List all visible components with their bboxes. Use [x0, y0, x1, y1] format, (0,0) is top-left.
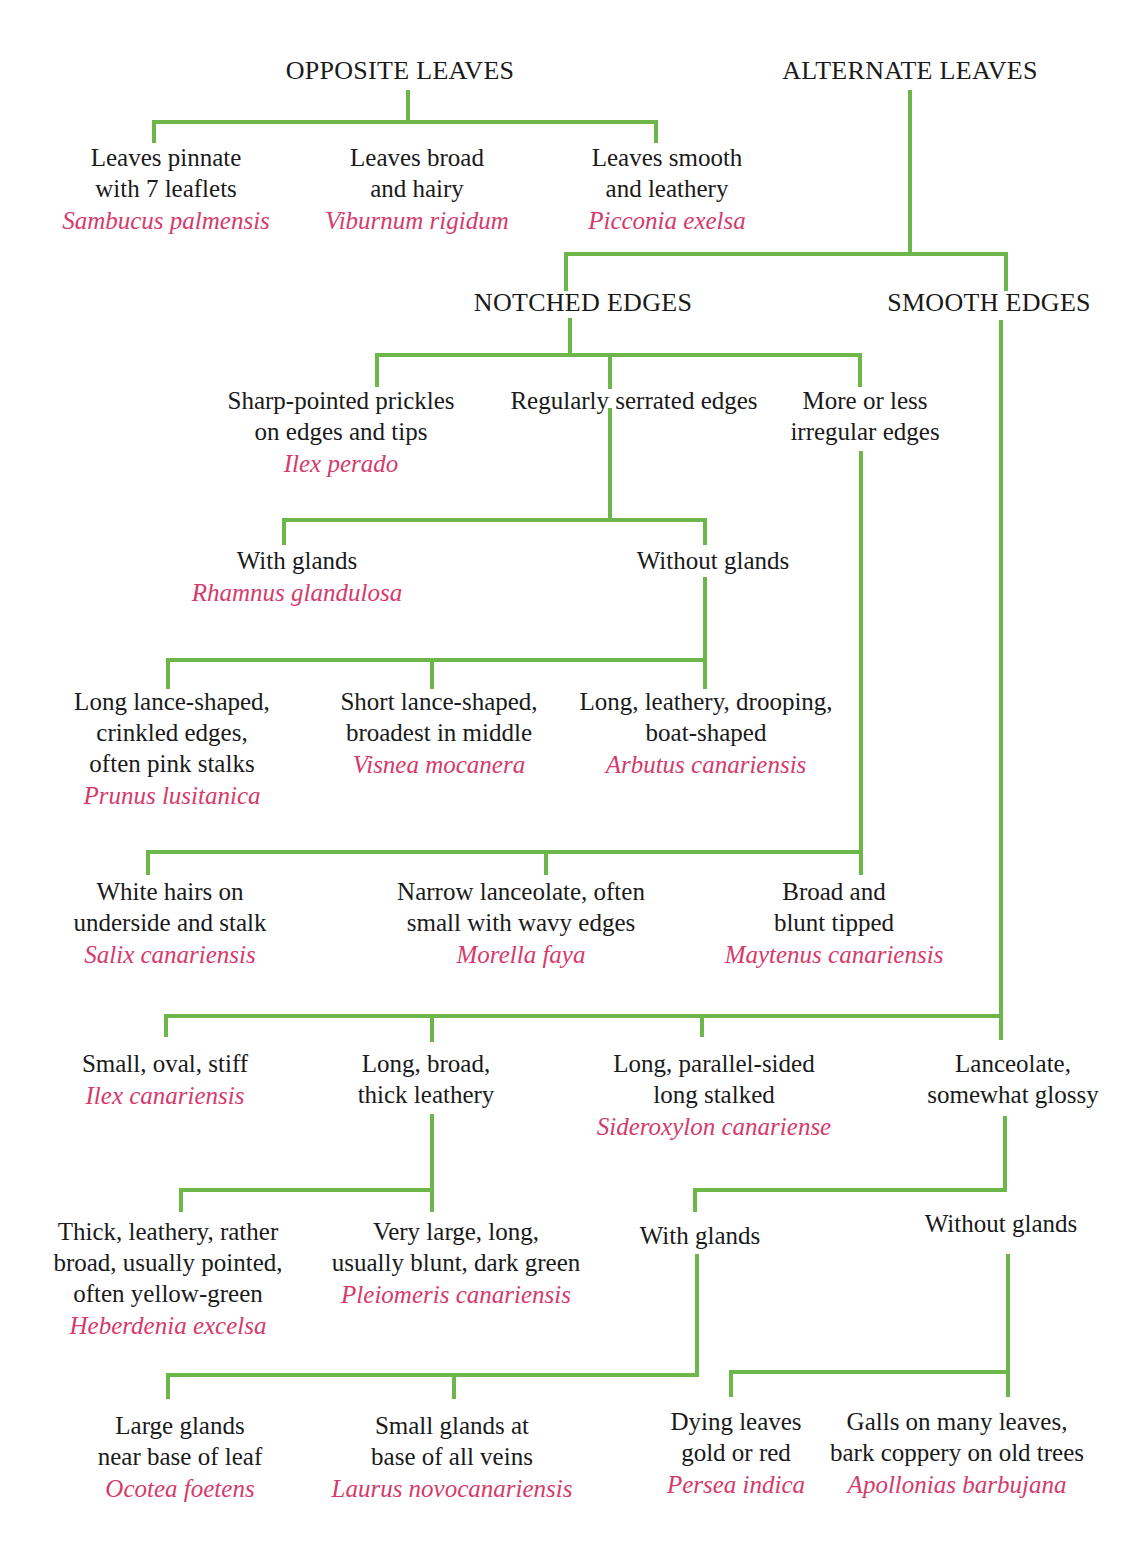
node-description: Dying leaves — [667, 1406, 805, 1437]
key-node: Lanceolate,somewhat glossy — [927, 1048, 1099, 1110]
node-description: Large glands — [98, 1410, 262, 1441]
node-description: More or less — [790, 385, 939, 416]
node-description: Long lance-shaped, — [74, 686, 270, 717]
node-description: Broad and — [725, 876, 944, 907]
key-node: Galls on many leaves,bark coppery on old… — [830, 1406, 1084, 1502]
species-name: Prunus lusitanica — [74, 779, 270, 813]
species-name: Heberdenia excelsa — [53, 1309, 282, 1343]
heading-smooth: SMOOTH EDGES — [887, 288, 1091, 318]
key-node: Leaves smoothand leatheryPicconia exelsa — [588, 142, 746, 238]
node-description: Sharp-pointed prickles — [227, 385, 454, 416]
node-description: With glands — [192, 545, 402, 576]
key-node: White hairs onunderside and stalkSalix c… — [73, 876, 266, 972]
node-description: broadest in middle — [340, 717, 537, 748]
node-description: with 7 leaflets — [62, 173, 270, 204]
node-description: Leaves pinnate — [62, 142, 270, 173]
species-name: Ocotea foetens — [98, 1472, 262, 1506]
node-description: irregular edges — [790, 416, 939, 447]
node-description: Regularly serrated edges — [510, 385, 757, 416]
key-node: Small glands atbase of all veinsLaurus n… — [332, 1410, 573, 1506]
node-description: Without glands — [925, 1208, 1077, 1239]
node-description: near base of leaf — [98, 1441, 262, 1472]
node-description: Lanceolate, — [927, 1048, 1099, 1079]
species-name: Rhamnus glandulosa — [192, 576, 402, 610]
node-description: and leathery — [588, 173, 746, 204]
node-description: base of all veins — [332, 1441, 573, 1472]
node-description: boat-shaped — [579, 717, 832, 748]
species-name: Viburnum rigidum — [325, 204, 509, 238]
species-name: Picconia exelsa — [588, 204, 746, 238]
node-description: long stalked — [597, 1079, 831, 1110]
node-description: Long, broad, — [358, 1048, 495, 1079]
key-node: With glandsRhamnus glandulosa — [192, 545, 402, 610]
node-description: crinkled edges, — [74, 717, 270, 748]
node-description: usually blunt, dark green — [332, 1247, 581, 1278]
key-node: Long lance-shaped,crinkled edges,often p… — [74, 686, 270, 813]
key-node: Large glandsnear base of leafOcotea foet… — [98, 1410, 262, 1506]
key-node: Narrow lanceolate, oftensmall with wavy … — [397, 876, 645, 972]
key-node: Regularly serrated edges — [510, 385, 757, 416]
key-node: Without glands — [637, 545, 789, 576]
key-node: Without glands — [925, 1208, 1077, 1239]
node-description: Galls on many leaves, — [830, 1406, 1084, 1437]
node-description: often pink stalks — [74, 748, 270, 779]
node-description: Small, oval, stiff — [82, 1048, 248, 1079]
key-node: With glands — [640, 1220, 761, 1251]
node-description: gold or red — [667, 1437, 805, 1468]
node-description: blunt tipped — [725, 907, 944, 938]
node-description: Narrow lanceolate, often — [397, 876, 645, 907]
key-node: Very large, long,usually blunt, dark gre… — [332, 1216, 581, 1312]
node-description: bark coppery on old trees — [830, 1437, 1084, 1468]
species-name: Apollonias barbujana — [830, 1468, 1084, 1502]
species-name: Arbutus canariensis — [579, 748, 832, 782]
node-description: small with wavy edges — [397, 907, 645, 938]
heading-opposite: OPPOSITE LEAVES — [286, 56, 515, 86]
key-node: Long, broad,thick leathery — [358, 1048, 495, 1110]
species-name: Laurus novocanariensis — [332, 1472, 573, 1506]
node-description: thick leathery — [358, 1079, 495, 1110]
species-name: Salix canariensis — [73, 938, 266, 972]
node-description: underside and stalk — [73, 907, 266, 938]
key-node: Leaves pinnatewith 7 leafletsSambucus pa… — [62, 142, 270, 238]
node-description: Leaves broad — [325, 142, 509, 173]
node-description: Very large, long, — [332, 1216, 581, 1247]
node-description: Long, leathery, drooping, — [579, 686, 832, 717]
node-description: on edges and tips — [227, 416, 454, 447]
key-node: Leaves broadand hairyViburnum rigidum — [325, 142, 509, 238]
node-description: often yellow-green — [53, 1278, 282, 1309]
species-name: Pleiomeris canariensis — [332, 1278, 581, 1312]
species-name: Ilex perado — [227, 447, 454, 481]
key-node: Dying leavesgold or redPersea indica — [667, 1406, 805, 1502]
heading-alternate: ALTERNATE LEAVES — [782, 56, 1037, 86]
node-description: and hairy — [325, 173, 509, 204]
leaf-identification-key: OPPOSITE LEAVESALTERNATE LEAVESNOTCHED E… — [0, 0, 1145, 1560]
key-node: Long, parallel-sidedlong stalkedSideroxy… — [597, 1048, 831, 1144]
key-node: Short lance-shaped,broadest in middleVis… — [340, 686, 537, 782]
species-name: Ilex canariensis — [82, 1079, 248, 1113]
node-description: broad, usually pointed, — [53, 1247, 282, 1278]
key-node: Thick, leathery, ratherbroad, usually po… — [53, 1216, 282, 1343]
node-description: Short lance-shaped, — [340, 686, 537, 717]
node-description: Small glands at — [332, 1410, 573, 1441]
species-name: Maytenus canariensis — [725, 938, 944, 972]
node-description: With glands — [640, 1220, 761, 1251]
key-node: Broad andblunt tippedMaytenus canariensi… — [725, 876, 944, 972]
heading-notched: NOTCHED EDGES — [474, 288, 692, 318]
node-description: White hairs on — [73, 876, 266, 907]
key-node: More or lessirregular edges — [790, 385, 939, 447]
species-name: Sambucus palmensis — [62, 204, 270, 238]
species-name: Sideroxylon canariense — [597, 1110, 831, 1144]
species-name: Visnea mocanera — [340, 748, 537, 782]
species-name: Persea indica — [667, 1468, 805, 1502]
node-description: Thick, leathery, rather — [53, 1216, 282, 1247]
key-node: Sharp-pointed prickleson edges and tipsI… — [227, 385, 454, 481]
key-node: Small, oval, stiffIlex canariensis — [82, 1048, 248, 1113]
node-description: Without glands — [637, 545, 789, 576]
node-description: Long, parallel-sided — [597, 1048, 831, 1079]
node-description: Leaves smooth — [588, 142, 746, 173]
key-node: Long, leathery, drooping,boat-shapedArbu… — [579, 686, 832, 782]
species-name: Morella faya — [397, 938, 645, 972]
node-description: somewhat glossy — [927, 1079, 1099, 1110]
